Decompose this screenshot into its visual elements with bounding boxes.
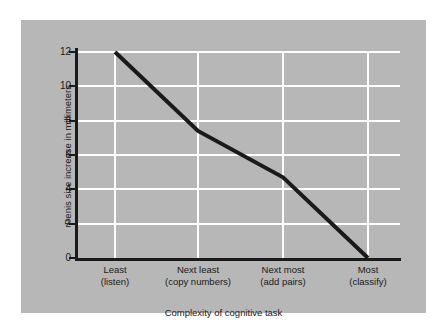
x-category-3-line2: (classify) (308, 276, 428, 288)
data-line (77, 52, 400, 258)
y-tick-label-6: 6 (65, 150, 71, 160)
x-axis-line (75, 258, 401, 261)
y-tick-label-0: 0 (65, 253, 71, 263)
y-tick-label-10: 10 (60, 81, 71, 91)
plot-area (77, 52, 400, 258)
y-tick-label-4: 4 (65, 184, 71, 194)
chart-panel: Penis size increase in millimeters 02468… (21, 20, 426, 313)
x-category-3: Most(classify) (308, 264, 428, 288)
x-category-3-line1: Most (308, 264, 428, 276)
y-tick-label-8: 8 (65, 116, 71, 126)
y-tick-label-2: 2 (65, 219, 71, 229)
y-tick-label-12: 12 (60, 47, 71, 57)
chart-page: Penis size increase in millimeters 02468… (0, 0, 447, 333)
x-axis-title: Complexity of cognitive task (21, 307, 426, 318)
